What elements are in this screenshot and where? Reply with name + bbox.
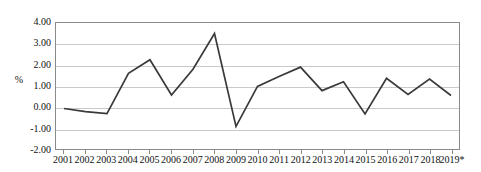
x-axis-tick-label: 2011 xyxy=(269,154,289,166)
x-axis-tick-label: 2016 xyxy=(377,154,397,166)
y-axis-tick-label: -1.00 xyxy=(22,124,51,134)
x-axis-tick-labels: 2001200220032004200520062007200820092010… xyxy=(0,154,481,170)
y-axis-tick-label: 0.00 xyxy=(22,102,51,112)
x-axis-tick-label: 2001 xyxy=(53,154,73,166)
x-axis-tick-label: 2005 xyxy=(139,154,159,166)
x-axis-tick-label: 2015 xyxy=(356,154,376,166)
x-axis-tick-label: 2006 xyxy=(161,154,181,166)
line-chart: % 4.003.002.001.000.00-1.00-2.00 2001200… xyxy=(0,0,481,172)
series-line-annual-change xyxy=(56,23,459,149)
x-axis-tick-label: 2002 xyxy=(75,154,95,166)
x-axis-tick-label: 2008 xyxy=(204,154,224,166)
x-axis-tick-label: 2009 xyxy=(226,154,246,166)
x-axis-tick-label: 2010 xyxy=(248,154,268,166)
x-axis-tick-label: 2003 xyxy=(96,154,116,166)
y-axis-tick-label: 4.00 xyxy=(22,17,51,27)
y-axis-tick-label: 2.00 xyxy=(22,60,51,70)
y-axis-tick-labels: 4.003.002.001.000.00-1.00-2.00 xyxy=(22,0,51,172)
x-axis-tick-label: 2019* xyxy=(440,154,465,166)
plot-area xyxy=(55,22,460,150)
x-axis-tick-label: 2012 xyxy=(291,154,311,166)
y-axis-tick-label: 1.00 xyxy=(22,81,51,91)
x-axis-tick-label: 2013 xyxy=(312,154,332,166)
x-axis-tick-label: 2007 xyxy=(183,154,203,166)
x-axis-tick-label: 2018 xyxy=(420,154,440,166)
x-axis-tick-label: 2014 xyxy=(334,154,354,166)
y-axis-tick-label: 3.00 xyxy=(22,38,51,48)
x-axis-tick-label: 2017 xyxy=(399,154,419,166)
x-axis-tick-label: 2004 xyxy=(118,154,138,166)
